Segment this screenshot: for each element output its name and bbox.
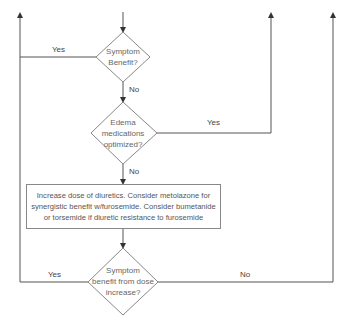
decision1-line1: Symptom	[100, 46, 146, 57]
decision1-no-label: No	[129, 86, 139, 94]
decision3-line1: Symptom	[88, 265, 158, 276]
decision2-line2: medications	[95, 128, 151, 139]
decision1-text: Symptom Benefit?	[100, 46, 146, 68]
decision3-line2: benefit from dose	[88, 276, 158, 287]
decision3-yes-label: Yes	[48, 271, 61, 279]
decision2-line1: Edema	[95, 117, 151, 128]
decision1-yes-label: Yes	[52, 46, 65, 54]
decision3-no-label: No	[240, 271, 250, 279]
decision2-no-label: No	[129, 168, 139, 176]
decision1-line2: Benefit?	[100, 57, 146, 68]
process-line3: or torsemide if diuretic resistance to f…	[31, 212, 215, 223]
process-line2: synergistic benefit w/furosemide. Consid…	[31, 201, 215, 212]
decision2-text: Edema medications optimized?	[95, 117, 151, 150]
decision2-line3: optimized?	[95, 139, 151, 150]
decision2-yes-label: Yes	[207, 119, 220, 127]
decision3-no-arrow	[158, 15, 333, 282]
decision2-yes-arrow	[157, 15, 271, 133]
process-line1: Increase dose of diuretics. Consider met…	[31, 190, 215, 201]
process-box: Increase dose of diuretics. Consider met…	[26, 184, 221, 229]
decision3-line3: increase?	[88, 287, 158, 298]
decision3-text: Symptom benefit from dose increase?	[88, 265, 158, 298]
process-text: Increase dose of diuretics. Consider met…	[27, 190, 219, 223]
